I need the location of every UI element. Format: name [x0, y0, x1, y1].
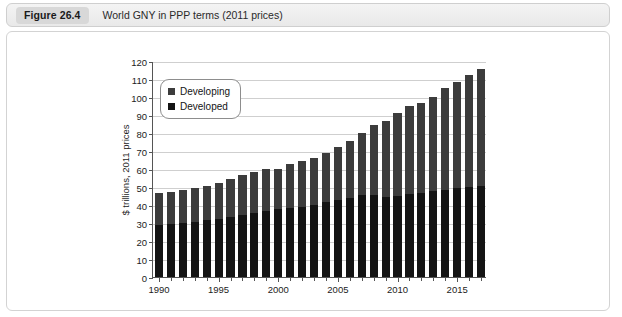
- bar-segment-developed: [358, 195, 366, 277]
- legend-item: Developed: [168, 99, 230, 114]
- bar-segment-developed: [286, 208, 294, 277]
- bar-segment-developing: [370, 125, 378, 195]
- x-tick-mark: [326, 277, 327, 281]
- bar-segment-developing: [358, 133, 366, 195]
- bar-segment-developed: [262, 211, 270, 277]
- bar-segment-developing: [167, 192, 175, 225]
- y-gridline: [153, 62, 486, 63]
- y-tick-label: 20: [136, 237, 147, 248]
- bar-stack: [167, 192, 175, 278]
- y-tick-label: 100: [131, 93, 147, 104]
- bar-stack: [238, 175, 246, 277]
- y-tick-mark: [149, 224, 153, 225]
- bar-segment-developing: [417, 103, 425, 194]
- bar-segment-developed: [405, 194, 413, 277]
- x-tick-label: 1995: [208, 284, 229, 295]
- bar-stack: [286, 164, 294, 277]
- y-tick-mark: [149, 62, 153, 63]
- bar-stack: [441, 88, 449, 277]
- x-tick-mark: [159, 277, 160, 282]
- y-axis-title: $ trillions, 2011 prices: [120, 124, 131, 215]
- y-tick-label: 0: [142, 273, 147, 284]
- y-tick-mark: [149, 134, 153, 135]
- bar-stack: [179, 190, 187, 277]
- bar-segment-developed: [203, 220, 211, 277]
- figure-caption: World GNY in PPP terms (2011 prices): [103, 9, 283, 21]
- bar-stack: [370, 125, 378, 277]
- bar-segment-developed: [226, 217, 234, 277]
- x-tick-mark: [350, 277, 351, 281]
- bar-segment-developed: [334, 200, 342, 277]
- x-tick-mark: [302, 277, 303, 281]
- x-tick-mark: [195, 277, 196, 281]
- bar-stack: [215, 183, 223, 278]
- bar-segment-developing: [238, 175, 246, 215]
- x-tick-mark: [469, 277, 470, 281]
- bar-stack: [274, 169, 282, 277]
- x-tick-mark: [457, 277, 458, 282]
- bar-segment-developing: [286, 164, 294, 208]
- bar-segment-developed: [298, 207, 306, 277]
- chart-legend: DevelopingDeveloped: [160, 79, 241, 119]
- bar-segment-developed: [167, 224, 175, 277]
- x-tick-label: 1990: [148, 284, 169, 295]
- bar-segment-developed: [441, 190, 449, 277]
- bar-segment-developing: [250, 172, 258, 213]
- bar-segment-developing: [274, 169, 282, 209]
- bar-segment-developing: [441, 88, 449, 189]
- y-tick-mark: [149, 206, 153, 207]
- x-tick-mark: [421, 277, 422, 281]
- x-tick-mark: [338, 277, 339, 282]
- bar-segment-developing: [298, 161, 306, 206]
- bar-segment-developing: [262, 169, 270, 211]
- y-tick-label: 10: [136, 255, 147, 266]
- x-tick-label: 2010: [387, 284, 408, 295]
- bar-segment-developed: [346, 198, 354, 277]
- bar-stack: [191, 188, 199, 277]
- y-tick-label: 50: [136, 183, 147, 194]
- y-tick-label: 30: [136, 219, 147, 230]
- bar-stack: [203, 186, 211, 277]
- y-tick-label: 90: [136, 111, 147, 122]
- legend-label: Developed: [180, 101, 228, 112]
- bar-segment-developing: [203, 186, 211, 221]
- bar-segment-developing: [226, 179, 234, 217]
- y-tick-mark: [149, 260, 153, 261]
- chart-canvas: $ trillions, 2011 prices 010203040506070…: [112, 31, 512, 311]
- bar-segment-developing: [393, 113, 401, 195]
- bar-stack: [465, 75, 473, 277]
- x-tick-mark: [445, 277, 446, 281]
- y-tick-label: 110: [132, 75, 147, 86]
- y-tick-mark: [149, 152, 153, 153]
- bar-segment-developed: [382, 197, 390, 277]
- bar-stack: [393, 113, 401, 277]
- bar-segment-developed: [238, 215, 246, 277]
- bar-stack: [322, 153, 330, 277]
- x-tick-mark: [171, 277, 172, 281]
- bar-segment-developing: [346, 141, 354, 198]
- bar-stack: [429, 97, 437, 277]
- bar-segment-developing: [322, 153, 330, 202]
- bar-stack: [310, 158, 318, 277]
- bar-segment-developing: [179, 190, 187, 223]
- y-tick-mark: [149, 242, 153, 243]
- bar-segment-developing: [453, 82, 461, 189]
- bar-segment-developed: [429, 191, 437, 277]
- bar-segment-developing: [429, 97, 437, 192]
- bar-segment-developed: [370, 195, 378, 277]
- x-tick-mark: [266, 277, 267, 281]
- x-tick-mark: [374, 277, 375, 281]
- y-tick-mark: [149, 98, 153, 99]
- bar-segment-developing: [310, 158, 318, 205]
- bar-segment-developing: [191, 188, 199, 222]
- bar-stack: [262, 169, 270, 277]
- x-tick-mark: [290, 277, 291, 281]
- legend-swatch-icon: [168, 88, 175, 95]
- y-tick-mark: [149, 116, 153, 117]
- bar-segment-developed: [179, 223, 187, 277]
- x-tick-mark: [183, 277, 184, 281]
- x-tick-label: 2015: [447, 284, 468, 295]
- bar-segment-developed: [155, 225, 163, 277]
- bar-segment-developed: [250, 213, 258, 277]
- bar-segment-developing: [215, 183, 223, 220]
